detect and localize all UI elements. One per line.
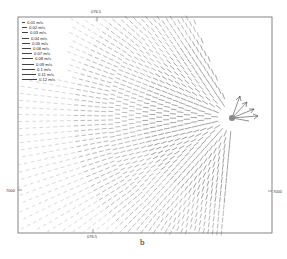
- legend-entry: 0.12 m/s: [22, 77, 55, 82]
- arrow-icon: [22, 27, 27, 28]
- arrow-icon: [22, 22, 25, 23]
- plot-frame: [18, 17, 272, 233]
- arrow-icon: [22, 43, 30, 44]
- bottom-tick-label: 076.5: [87, 234, 97, 239]
- arrow-icon: [22, 74, 36, 75]
- arrow-icon: [22, 38, 29, 39]
- legend-label: 0.12 m/s: [39, 77, 55, 82]
- arrow-icon: [22, 69, 35, 70]
- top-tick-label: 076.5: [91, 9, 101, 14]
- arrow-icon: [22, 64, 34, 65]
- arrow-icon: [22, 58, 33, 59]
- arrow-icon: [22, 79, 37, 80]
- arrow-icon: [22, 53, 32, 54]
- arrow-icon: [22, 48, 31, 49]
- arrow-icon: [22, 32, 28, 33]
- left-tick-label: 7000: [6, 188, 15, 193]
- figure-caption: b: [140, 237, 145, 247]
- velocity-legend: 0.01 m/s0.02 m/s0.03 m/s0.04 m/s0.05 m/s…: [22, 20, 55, 82]
- right-tick-label: 7000: [273, 189, 282, 194]
- source-jet-arrows: [229, 96, 258, 121]
